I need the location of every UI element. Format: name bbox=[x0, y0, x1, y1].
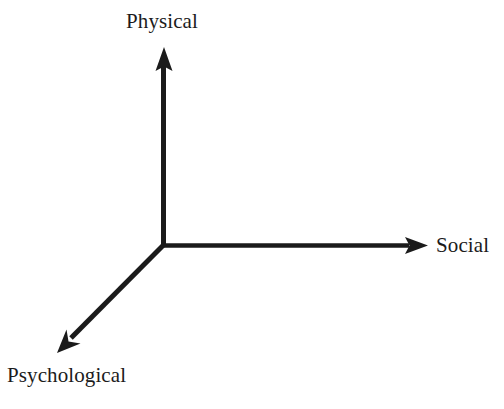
diagram-background bbox=[0, 0, 504, 409]
axis-label-psychological: Psychological bbox=[7, 365, 126, 386]
axes-diagram-canvas bbox=[0, 0, 504, 409]
axis-label-physical: Physical bbox=[126, 11, 198, 32]
axis-label-social: Social bbox=[436, 235, 489, 256]
